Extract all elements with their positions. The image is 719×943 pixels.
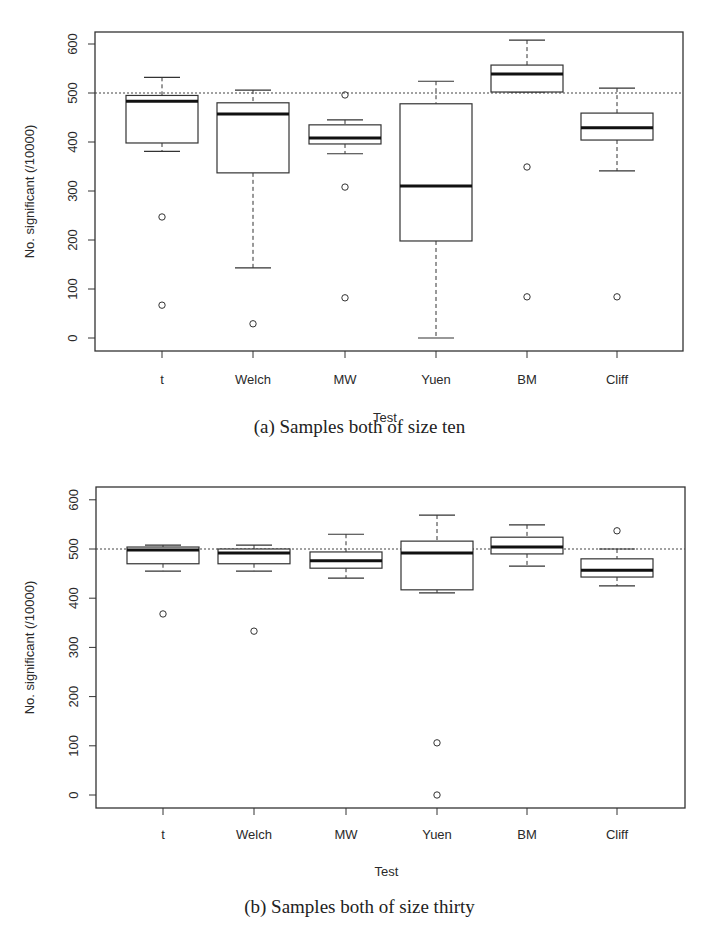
outlier-point	[250, 321, 256, 327]
outlier-point	[614, 528, 620, 534]
box-t	[126, 77, 198, 308]
iqr-box	[400, 104, 472, 241]
outlier-point	[159, 214, 165, 220]
y-axis-label: No. significant (/10000)	[22, 581, 37, 715]
caption-a: (a) Samples both of size ten	[0, 416, 719, 438]
x-tick-label: Welch	[236, 827, 272, 842]
boxplot-chart-a: 0100200300400500600No. significant (/100…	[0, 0, 719, 460]
outlier-point	[434, 740, 440, 746]
box-bm	[491, 40, 563, 300]
box-welch	[218, 545, 290, 634]
y-axis-label: No. significant (/10000)	[22, 125, 37, 259]
outlier-point	[524, 294, 530, 300]
y-tick-label: 400	[66, 587, 81, 609]
figure-b: 0100200300400500600No. significant (/100…	[0, 460, 719, 943]
y-tick-label: 100	[65, 278, 80, 300]
iqr-box	[581, 559, 653, 577]
y-tick-label: 300	[65, 180, 80, 202]
outlier-point	[342, 184, 348, 190]
x-tick-label: BM	[517, 372, 537, 387]
outlier-point	[160, 611, 166, 617]
y-tick-label: 500	[66, 538, 81, 560]
outlier-point	[434, 792, 440, 798]
iqr-box	[491, 65, 563, 92]
outlier-point	[159, 302, 165, 308]
box-cliff	[581, 88, 653, 300]
caption-b: (b) Samples both of size thirty	[0, 896, 719, 918]
outlier-point	[251, 628, 257, 634]
box-cliff	[581, 528, 653, 586]
x-tick-label: Welch	[235, 372, 271, 387]
y-tick-label: 300	[66, 637, 81, 659]
y-tick-label: 200	[65, 229, 80, 251]
iqr-box	[309, 125, 381, 144]
y-tick-label: 100	[66, 735, 81, 757]
y-tick-label: 600	[66, 489, 81, 511]
y-tick-label: 200	[66, 686, 81, 708]
outlier-point	[342, 295, 348, 301]
y-tick-label: 0	[65, 334, 80, 341]
x-tick-label: Yuen	[422, 827, 452, 842]
y-tick-label: 0	[66, 791, 81, 798]
x-tick-label: t	[161, 827, 165, 842]
plot-frame	[95, 32, 683, 351]
iqr-box	[218, 549, 290, 564]
box-t	[127, 545, 199, 617]
outlier-point	[614, 294, 620, 300]
box-yuen	[401, 515, 473, 798]
iqr-box	[401, 541, 473, 590]
plot-frame	[96, 487, 685, 808]
x-tick-label: t	[160, 372, 164, 387]
y-tick-label: 500	[65, 82, 80, 104]
box-mw	[309, 92, 381, 301]
y-tick-label: 600	[65, 33, 80, 55]
box-yuen	[400, 81, 472, 338]
x-axis-label: Test	[375, 864, 399, 879]
x-tick-label: BM	[517, 827, 537, 842]
x-tick-label: Cliff	[606, 372, 629, 387]
figure-a: 0100200300400500600No. significant (/100…	[0, 0, 719, 487]
boxplot-chart-b: 0100200300400500600No. significant (/100…	[0, 460, 719, 890]
outlier-point	[524, 164, 530, 170]
x-tick-label: Cliff	[606, 827, 629, 842]
x-tick-label: MW	[334, 827, 358, 842]
x-tick-label: Yuen	[421, 372, 451, 387]
box-bm	[491, 525, 563, 566]
x-tick-label: MW	[333, 372, 357, 387]
box-mw	[310, 534, 382, 578]
y-tick-label: 400	[65, 131, 80, 153]
box-welch	[217, 90, 289, 327]
